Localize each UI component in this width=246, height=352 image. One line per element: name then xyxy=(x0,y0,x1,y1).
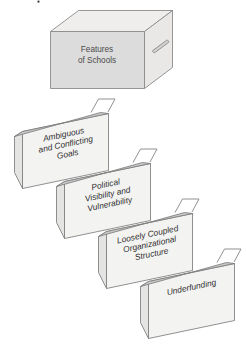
card-4-hanger-icon xyxy=(217,249,241,263)
figure-canvas: Features of Schools Ambiguous and Confli… xyxy=(0,0,246,352)
box-label-line1: Features xyxy=(81,45,113,54)
card-3-hanger-icon xyxy=(175,199,199,213)
card-3-left-panel xyxy=(99,232,107,289)
scan-speck xyxy=(38,1,40,3)
box-label-line2: of Schools xyxy=(78,56,116,65)
card-1-left-panel xyxy=(15,132,23,189)
card-2-hanger-icon xyxy=(133,149,157,163)
box-container: Features of Schools xyxy=(51,11,173,89)
features-of-schools-diagram: Features of Schools Ambiguous and Confli… xyxy=(0,0,246,352)
card-1-hanger-icon xyxy=(91,99,115,113)
card-4-left-panel xyxy=(141,282,149,339)
card-2-left-panel xyxy=(57,182,65,239)
